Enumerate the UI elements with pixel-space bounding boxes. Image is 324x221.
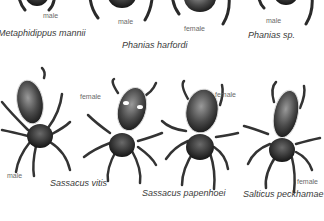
spider-illustration-sassacus-papenhoei-female bbox=[160, 85, 240, 190]
spider-illustration-sassacus-vitis-male bbox=[0, 72, 80, 177]
sex-label: female bbox=[80, 93, 101, 100]
sex-label: female bbox=[215, 91, 236, 98]
species-label: Sassacus papenhoei bbox=[142, 188, 226, 198]
species-label: Phanias harfordi bbox=[122, 40, 188, 50]
sex-label: female bbox=[297, 178, 318, 185]
sex-label: male bbox=[43, 12, 58, 19]
sex-label: male bbox=[7, 172, 22, 179]
species-label: Sassacus vitis bbox=[50, 178, 107, 188]
species-label: Salticus peckhamae bbox=[243, 189, 324, 199]
spider-illustration-phanias-sp-male bbox=[250, 0, 320, 30]
species-label: Phanias sp. bbox=[248, 30, 295, 40]
sex-label: male bbox=[266, 17, 281, 24]
species-label: Metaphidippus mannii bbox=[0, 28, 86, 38]
spider-illustration-sassacus-vitis-female bbox=[80, 85, 160, 185]
sex-label: female bbox=[184, 25, 205, 32]
sex-label: male bbox=[118, 18, 133, 25]
